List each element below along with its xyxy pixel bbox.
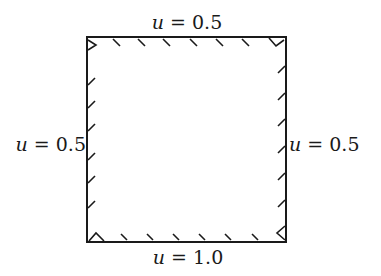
top-boundary-hatch: [88, 38, 284, 50]
bottom-boundary-hatch: [89, 226, 285, 241]
bottom-boundary-label: u = 1.0: [153, 246, 223, 268]
domain-square: [87, 37, 286, 242]
right-boundary-hatch: [278, 66, 285, 207]
left-boundary-hatch: [88, 78, 95, 208]
left-boundary-label: u = 0.5: [16, 133, 86, 155]
top-boundary-label: u = 0.5: [152, 11, 222, 33]
diagram-canvas: u = 0.5 u = 1.0 u = 0.5 u = 0.5: [0, 0, 381, 276]
right-boundary-label: u = 0.5: [289, 133, 359, 155]
